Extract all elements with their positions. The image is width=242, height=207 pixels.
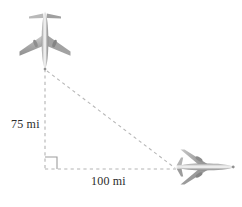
airplane-top-wing-right [47, 35, 71, 56]
airplane-right-wing-upper [181, 150, 210, 166]
airplane-right-wing-lower [181, 169, 210, 185]
hypotenuse-line [47, 71, 175, 168]
airplane-right-stabilizer-upper [177, 158, 184, 166]
vertical-distance-label: 75 mi [11, 117, 40, 132]
airplane-right-nosecone [232, 166, 235, 169]
airplane-top-stabilizers-right [47, 14, 61, 19]
distance-diagram-figure: 75 mi 100 mi [0, 0, 242, 207]
airplane-top-wing-left [20, 35, 44, 56]
airplane-right-icon [176, 150, 235, 185]
horizontal-distance-label: 100 mi [91, 174, 126, 189]
right-angle-marker [45, 157, 57, 169]
airplane-top-tailcone [44, 68, 47, 71]
airplane-top-fin [44, 13, 46, 68]
airplane-top-icon [20, 12, 71, 71]
airplane-right-spine [178, 166, 233, 168]
triangle-lines [45, 69, 176, 169]
airplane-top-stabilizers [29, 14, 43, 19]
airplane-right-stabilizer-lower [177, 169, 184, 177]
